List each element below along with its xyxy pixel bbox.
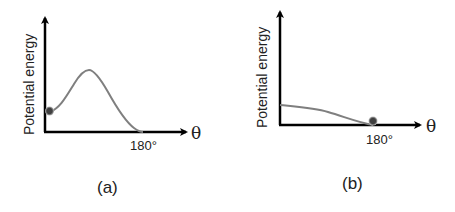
y-axis-label: Potential energy xyxy=(21,34,37,135)
figure: Potential energy θ 180° (a) Potential en… xyxy=(0,0,455,212)
panel-a: Potential energy θ 180° (a) xyxy=(21,18,201,197)
panel-caption: (b) xyxy=(342,174,363,193)
ball xyxy=(369,117,378,126)
x-tick-label: 180° xyxy=(130,138,157,153)
x-axis-label: θ xyxy=(426,116,436,136)
energy-curve xyxy=(280,105,373,125)
x-tick-label: 180° xyxy=(366,132,393,147)
y-axis-label: Potential energy xyxy=(254,27,270,128)
panel-b: Potential energy θ 180° (b) xyxy=(254,12,436,193)
panel-caption: (a) xyxy=(97,178,118,197)
ball xyxy=(45,107,54,116)
energy-curve xyxy=(50,70,143,132)
x-axis-label: θ xyxy=(191,123,201,143)
